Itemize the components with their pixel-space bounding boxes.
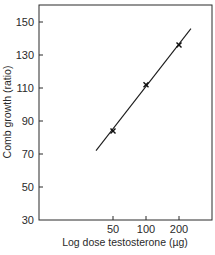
- y-tick-label: 70: [22, 148, 34, 160]
- x-axis-ticks: 50100200: [107, 216, 188, 235]
- x-tick-label: 200: [170, 223, 188, 235]
- y-tick-label: 30: [22, 214, 34, 226]
- chart: 30507090110130150 50100200 Log dose test…: [0, 0, 215, 255]
- y-axis-label: Comb growth (ratio): [1, 66, 13, 159]
- y-tick-label: 110: [16, 82, 34, 94]
- y-tick-label: 150: [16, 16, 34, 28]
- y-tick-label: 90: [22, 115, 34, 127]
- y-tick-label: 50: [22, 181, 34, 193]
- y-tick-label: 130: [16, 49, 34, 61]
- x-tick-label: 100: [137, 223, 155, 235]
- data-point-markers: [111, 43, 182, 134]
- x-tick-label: 50: [107, 223, 119, 235]
- x-axis-label: Log dose testosterone (µg): [62, 236, 188, 248]
